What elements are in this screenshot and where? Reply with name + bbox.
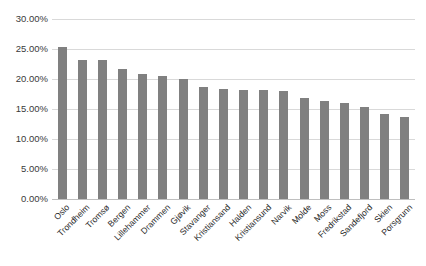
x-axis-tick-label: Narvik — [270, 203, 294, 227]
y-axis-tick-label: 5.00% — [0, 164, 48, 174]
bar — [58, 47, 67, 199]
bar — [380, 114, 389, 199]
bar — [360, 107, 369, 199]
bar — [279, 91, 288, 199]
bar-chart: 30.00%25.00%20.00%15.00%10.00%5.00%0.00%… — [0, 0, 426, 266]
bar-series — [52, 19, 415, 199]
bar — [340, 103, 349, 199]
bar — [219, 89, 228, 199]
bar — [300, 98, 309, 199]
y-axis-tick-label: 15.00% — [0, 104, 48, 114]
y-axis-tick-label: 30.00% — [0, 14, 48, 24]
bar — [138, 74, 147, 199]
x-axis-baseline — [52, 199, 415, 200]
bar — [320, 101, 329, 199]
x-axis-labels: OsloTrondheimTromsøBergenLillehammerDram… — [52, 201, 415, 265]
bar — [78, 60, 87, 199]
bar — [239, 90, 248, 199]
y-axis-tick-label: 25.00% — [0, 44, 48, 54]
x-axis-tick-label: Molde — [291, 203, 315, 227]
bar — [400, 117, 409, 199]
bar — [179, 79, 188, 199]
bar — [259, 90, 268, 199]
bar — [158, 76, 167, 199]
y-axis-tick-label: 10.00% — [0, 134, 48, 144]
y-axis-tick-label: 0.00% — [0, 194, 48, 204]
y-axis-labels: 30.00%25.00%20.00%15.00%10.00%5.00%0.00% — [0, 19, 48, 199]
bar — [98, 60, 107, 199]
y-axis-tick-label: 20.00% — [0, 74, 48, 84]
bar — [118, 69, 127, 199]
bar — [199, 87, 208, 199]
